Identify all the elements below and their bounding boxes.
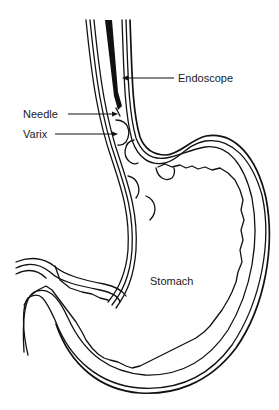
stomach-label: Stomach — [150, 275, 193, 287]
varix-label: Varix — [23, 128, 48, 140]
endoscope — [105, 20, 122, 116]
label-endoscope: Endoscope — [122, 72, 233, 84]
needle-label: Needle — [23, 108, 58, 120]
endoscopy-diagram: Endoscope Needle Varix Stomach — [0, 0, 279, 410]
label-varix: Varix — [23, 128, 118, 140]
endoscope-label: Endoscope — [178, 72, 233, 84]
